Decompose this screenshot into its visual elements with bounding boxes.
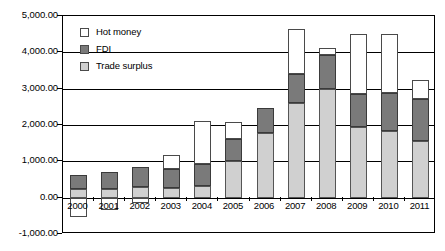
stacked-column-chart: 5,000.004,000.003,000.002,000.001,000.00… (0, 0, 445, 251)
x-axis-tick-label: 2011 (404, 200, 434, 211)
gridline (63, 161, 434, 162)
legend-item: Trade surplus (80, 58, 152, 74)
bar-segment-trade-surplus (319, 89, 336, 197)
x-axis-tick-label: 2004 (187, 200, 217, 211)
bar-segment-fdi (163, 169, 180, 188)
bar-segment-fdi (70, 175, 87, 189)
bar-segment-trade-surplus (225, 161, 242, 198)
legend-item: FDI (80, 41, 152, 57)
legend: Hot moneyFDITrade surplus (80, 24, 152, 75)
legend-swatch-icon (80, 45, 89, 54)
y-axis-tick-label: 1,000.00 (0, 155, 58, 165)
gridline (63, 89, 434, 90)
y-axis-tick-label: 0.00 (0, 192, 58, 202)
x-axis-tick-label: 2008 (311, 200, 341, 211)
bar-segment-trade-surplus (350, 127, 367, 198)
bar-segment-hot-money (163, 155, 180, 169)
gridline (63, 125, 434, 126)
x-axis-tick-label: 2001 (94, 200, 124, 211)
y-axis-tick-label: 5,000.00 (0, 10, 58, 20)
x-axis-tick-label: 2009 (342, 200, 372, 211)
bar-segment-hot-money (319, 48, 336, 55)
x-axis-tick-label: 2002 (125, 200, 155, 211)
y-axis-tick-label: -1,000.00 (0, 228, 58, 238)
legend-label: Trade surplus (96, 61, 152, 71)
bar-segment-fdi (225, 139, 242, 161)
bar-segment-hot-money (412, 80, 429, 99)
x-axis-tick-label: 2006 (249, 200, 279, 211)
y-axis-tick-label: 4,000.00 (0, 46, 58, 56)
x-axis-tick-label: 2010 (373, 200, 403, 211)
bar-segment-trade-surplus (194, 186, 211, 198)
bar-segment-trade-surplus (381, 131, 398, 198)
y-axis: 5,000.004,000.003,000.002,000.001,000.00… (0, 0, 58, 251)
bar-segment-fdi (412, 99, 429, 141)
bar-segment-fdi (319, 55, 336, 90)
bar-segment-hot-money (288, 29, 305, 74)
x-axis-tick-label: 2005 (218, 200, 248, 211)
legend-swatch-icon (80, 62, 89, 71)
bar-segment-trade-surplus (101, 189, 118, 197)
bar-segment-trade-surplus (70, 189, 87, 198)
bar-segment-fdi (350, 94, 367, 127)
y-axis-tick-label: 3,000.00 (0, 83, 58, 93)
bar-segment-fdi (381, 93, 398, 131)
bar-segment-fdi (101, 172, 118, 189)
legend-label: Hot money (96, 27, 141, 37)
bar-segment-trade-surplus (257, 133, 274, 197)
bar-segment-fdi (257, 108, 274, 133)
legend-swatch-icon (80, 28, 89, 37)
bar-segment-trade-surplus (132, 187, 149, 198)
bar-segment-trade-surplus (163, 188, 180, 197)
bar-segment-hot-money (194, 121, 211, 164)
bar-segment-hot-money (350, 34, 367, 94)
x-axis-tick-label: 2003 (156, 200, 186, 211)
legend-item: Hot money (80, 24, 152, 40)
bar-segment-fdi (132, 167, 149, 186)
y-axis-tick-mark (57, 233, 62, 234)
bar-segment-fdi (194, 164, 211, 186)
bar-segment-hot-money (225, 122, 242, 139)
y-axis-tick-label: 2,000.00 (0, 119, 58, 129)
bar-segment-trade-surplus (288, 103, 305, 198)
bar-segment-hot-money (381, 34, 398, 93)
legend-label: FDI (96, 44, 111, 54)
x-axis-tick-label: 2000 (63, 200, 93, 211)
bar-segment-fdi (288, 74, 305, 102)
bar-segment-trade-surplus (412, 141, 429, 197)
x-axis-tick-label: 2007 (280, 200, 310, 211)
